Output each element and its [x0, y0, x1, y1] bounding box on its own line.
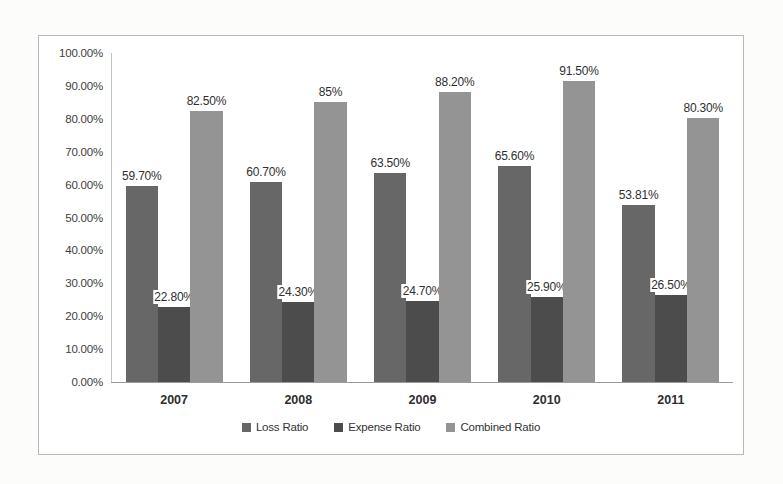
- y-axis-tick-label: 10.00%: [65, 343, 103, 355]
- chart-plot-wrapper: 0.00%10.00%20.00%30.00%40.00%50.00%60.00…: [39, 36, 743, 454]
- bar-expense-ratio-2007[interactable]: 22.80%: [158, 307, 190, 382]
- bar-group: 59.70%22.80%82.50%: [112, 53, 236, 382]
- bar-value-label: 53.81%: [618, 188, 660, 202]
- bar-value-label: 22.80%: [153, 290, 195, 304]
- bar-group-bars: 65.60%25.90%91.50%: [485, 53, 609, 382]
- y-axis-tick-labels: 0.00%10.00%20.00%30.00%40.00%50.00%60.00…: [41, 36, 107, 454]
- y-axis-tick-label: 60.00%: [65, 179, 103, 191]
- bar-combined-ratio-2009[interactable]: 88.20%: [439, 92, 471, 382]
- y-axis-tick-label: 50.00%: [65, 212, 103, 224]
- bar-value-label: 82.50%: [186, 94, 228, 108]
- plot-area: 59.70%22.80%82.50%60.70%24.30%85%63.50%2…: [112, 53, 733, 382]
- bar-group-bars: 59.70%22.80%82.50%: [112, 53, 236, 382]
- bar-expense-ratio-2010[interactable]: 25.90%: [531, 297, 563, 382]
- bar-value-label: 65.60%: [494, 149, 536, 163]
- bar-loss-ratio-2007[interactable]: 59.70%: [126, 186, 158, 382]
- x-axis-tick-label-2011: 2011: [657, 393, 684, 407]
- legend-swatch-icon: [242, 423, 251, 432]
- bar-value-label: 80.30%: [682, 101, 724, 115]
- bar-group: 63.50%24.70%88.20%: [360, 53, 484, 382]
- bar-expense-ratio-2008[interactable]: 24.30%: [282, 302, 314, 382]
- bar-group: 53.81%26.50%80.30%: [609, 53, 733, 382]
- bar-loss-ratio-2010[interactable]: 65.60%: [498, 166, 530, 382]
- bar-group-bars: 60.70%24.30%85%: [236, 53, 360, 382]
- legend-label: Loss Ratio: [256, 421, 308, 433]
- legend-item-combined-ratio[interactable]: Combined Ratio: [446, 421, 540, 433]
- y-axis-tick-label: 80.00%: [65, 113, 103, 125]
- bar-expense-ratio-2009[interactable]: 24.70%: [406, 301, 438, 382]
- bar-value-label: 25.90%: [526, 280, 568, 294]
- y-axis-tick-label: 70.00%: [65, 146, 103, 158]
- bar-value-label: 24.70%: [402, 284, 444, 298]
- chart-legend: Loss RatioExpense RatioCombined Ratio: [39, 421, 743, 433]
- bar-group: 65.60%25.90%91.50%: [485, 53, 609, 382]
- x-axis-tick-label-2007: 2007: [160, 393, 188, 407]
- x-axis-tick-labels: 20072008200920102011: [112, 388, 733, 414]
- x-axis-line: [111, 382, 733, 383]
- legend-item-expense-ratio[interactable]: Expense Ratio: [334, 421, 420, 433]
- bar-combined-ratio-2008[interactable]: 85%: [314, 102, 346, 382]
- bar-group: 60.70%24.30%85%: [236, 53, 360, 382]
- bar-value-label: 88.20%: [434, 75, 476, 89]
- bar-combined-ratio-2011[interactable]: 80.30%: [687, 118, 719, 382]
- legend-swatch-icon: [334, 423, 343, 432]
- y-axis-tick-label: 100.00%: [59, 47, 103, 59]
- bar-group-bars: 63.50%24.70%88.20%: [360, 53, 484, 382]
- bar-loss-ratio-2011[interactable]: 53.81%: [622, 205, 654, 382]
- bar-combined-ratio-2007[interactable]: 82.50%: [190, 111, 222, 382]
- legend-label: Expense Ratio: [348, 421, 420, 433]
- bar-combined-ratio-2010[interactable]: 91.50%: [563, 81, 595, 382]
- y-axis-tick-label: 20.00%: [65, 310, 103, 322]
- bar-value-label: 24.30%: [278, 285, 320, 299]
- y-axis-tick-label: 90.00%: [65, 80, 103, 92]
- bar-group-bars: 53.81%26.50%80.30%: [609, 53, 733, 382]
- x-axis-tick-label-2010: 2010: [533, 393, 561, 407]
- bar-loss-ratio-2009[interactable]: 63.50%: [374, 173, 406, 382]
- bar-value-label: 59.70%: [121, 169, 163, 183]
- legend-item-loss-ratio[interactable]: Loss Ratio: [242, 421, 308, 433]
- legend-label: Combined Ratio: [460, 421, 540, 433]
- bar-expense-ratio-2011[interactable]: 26.50%: [655, 295, 687, 382]
- bar-value-label: 63.50%: [369, 156, 411, 170]
- y-axis-tick-label: 30.00%: [65, 277, 103, 289]
- x-axis-tick-label-2009: 2009: [409, 393, 437, 407]
- bar-loss-ratio-2008[interactable]: 60.70%: [250, 182, 282, 382]
- bar-value-label: 85%: [318, 85, 343, 99]
- bar-value-label: 91.50%: [558, 64, 600, 78]
- y-axis-tick-label: 0.00%: [71, 376, 103, 388]
- x-axis-tick-label-2008: 2008: [284, 393, 312, 407]
- bar-value-label: 60.70%: [245, 165, 287, 179]
- chart-frame: 0.00%10.00%20.00%30.00%40.00%50.00%60.00…: [38, 35, 744, 455]
- y-axis-tick-label: 40.00%: [65, 244, 103, 256]
- bar-value-label: 26.50%: [650, 278, 692, 292]
- legend-swatch-icon: [446, 423, 455, 432]
